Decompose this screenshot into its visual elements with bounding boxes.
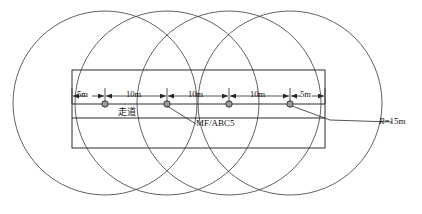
sprinkler-head-icon[interactable] <box>226 101 232 107</box>
dimension-label-10m-a: 10m <box>126 90 141 99</box>
corridor-label: 走道 <box>118 108 136 117</box>
leader-radius <box>292 106 392 122</box>
sprinkler-head-icon[interactable] <box>102 101 108 107</box>
leader-mf-abc5 <box>167 106 196 124</box>
dimension-label-5m-left: 5m <box>77 90 88 99</box>
coverage-circles <box>13 11 382 195</box>
device-callout-label: MF/ABC5 <box>196 119 235 128</box>
radius-value: =15m <box>385 116 406 126</box>
diagram-svg <box>0 0 422 214</box>
dimension-label-10m-c: 10m <box>250 90 265 99</box>
dimension-label-10m-b: 10m <box>188 90 203 99</box>
diagram-canvas: 5m 10m 10m 10m 5m 走道 MF/ABC5 R=15m <box>0 0 422 214</box>
dimension-label-5m-right: 5m <box>300 90 311 99</box>
radius-label: R=15m <box>379 117 406 126</box>
